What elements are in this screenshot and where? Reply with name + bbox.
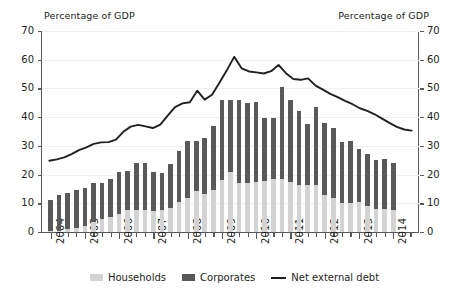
y-tick-label: 60 xyxy=(0,55,34,65)
y-tick-label: 70 xyxy=(427,26,440,36)
x-tick-mark-major xyxy=(85,233,86,239)
y-tick-mark xyxy=(420,203,424,204)
y-tick-mark xyxy=(38,232,42,233)
y-tick-mark xyxy=(420,31,424,32)
x-tick-mark-minor xyxy=(102,233,103,237)
x-tick-mark-major xyxy=(119,233,120,239)
x-tick-mark-minor xyxy=(205,233,206,237)
chart-legend: HouseholdsCorporatesNet external debt xyxy=(0,272,469,283)
y-tick-label: 0 xyxy=(0,227,34,237)
legend-box-swatch-icon xyxy=(182,274,195,281)
legend-item-net-external-debt[interactable]: Net external debt xyxy=(271,272,379,283)
y-tick-label: 50 xyxy=(0,83,34,93)
x-tick-mark-minor xyxy=(316,233,317,237)
net-external-debt-path xyxy=(49,57,411,161)
y-tick-mark xyxy=(420,175,424,176)
y-tick-mark xyxy=(420,117,424,118)
x-tick-mark-minor xyxy=(376,233,377,237)
x-tick-mark-major xyxy=(153,233,154,239)
x-tick-mark-minor xyxy=(76,233,77,237)
x-tick-mark-minor xyxy=(308,233,309,237)
x-tick-mark-minor xyxy=(179,233,180,237)
legend-label: Households xyxy=(108,272,166,283)
legend-line-swatch-icon xyxy=(271,277,286,279)
x-tick-mark-minor xyxy=(136,233,137,237)
right-axis-title: Percentage of GDP xyxy=(338,10,429,21)
x-tick-mark-minor xyxy=(239,233,240,237)
y-tick-label: 10 xyxy=(0,198,34,208)
x-tick-mark-major xyxy=(222,233,223,239)
y-tick-mark xyxy=(420,232,424,233)
x-tick-mark-major xyxy=(325,233,326,239)
x-tick-mark-minor xyxy=(385,233,386,237)
y-tick-label: 50 xyxy=(427,83,440,93)
legend-label: Corporates xyxy=(200,272,255,283)
y-tick-label: 30 xyxy=(0,141,34,151)
x-tick-mark-minor xyxy=(410,233,411,237)
x-tick-mark-minor xyxy=(282,233,283,237)
x-tick-mark-minor xyxy=(213,233,214,237)
x-tick-mark-minor xyxy=(273,233,274,237)
net-external-debt-line xyxy=(42,31,419,232)
legend-item-corporates[interactable]: Corporates xyxy=(182,272,255,283)
y-tick-label: 40 xyxy=(427,112,440,122)
x-tick-mark-minor xyxy=(350,233,351,237)
legend-item-households[interactable]: Households xyxy=(90,272,166,283)
x-tick-mark-major xyxy=(51,233,52,239)
x-tick-mark-major xyxy=(359,233,360,239)
x-tick-mark-major xyxy=(188,233,189,239)
y-tick-label: 40 xyxy=(0,112,34,122)
chart-container: Percentage of GDP Percentage of GDP 0102… xyxy=(0,0,469,301)
y-tick-mark xyxy=(420,88,424,89)
y-tick-label: 30 xyxy=(427,141,440,151)
y-tick-label: 10 xyxy=(427,198,440,208)
x-tick-mark-minor xyxy=(111,233,112,237)
left-axis-title: Percentage of GDP xyxy=(44,10,135,21)
legend-box-swatch-icon xyxy=(90,274,103,281)
x-tick-mark-minor xyxy=(145,233,146,237)
x-tick-mark-major xyxy=(393,233,394,239)
y-tick-mark xyxy=(420,146,424,147)
x-tick-mark-minor xyxy=(68,233,69,237)
y-tick-label: 70 xyxy=(0,26,34,36)
y-tick-label: 60 xyxy=(427,55,440,65)
y-tick-label: 20 xyxy=(0,170,34,180)
legend-label: Net external debt xyxy=(291,272,379,283)
y-tick-label: 0 xyxy=(427,227,433,237)
x-tick-mark-minor xyxy=(171,233,172,237)
y-tick-mark xyxy=(420,60,424,61)
y-tick-label: 20 xyxy=(427,170,440,180)
x-tick-mark-minor xyxy=(342,233,343,237)
x-tick-mark-major xyxy=(290,233,291,239)
x-tick-mark-minor xyxy=(248,233,249,237)
x-tick-mark-major xyxy=(256,233,257,239)
